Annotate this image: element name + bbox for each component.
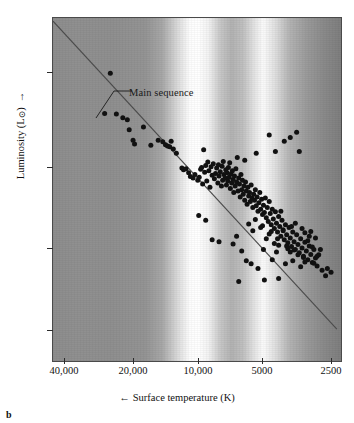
y-tick-mark <box>47 248 53 249</box>
x-tick-label: 40,000 <box>50 365 79 376</box>
y-axis-title-close: ) <box>15 107 26 111</box>
x-tick-mark <box>133 358 134 364</box>
hr-diagram-figure: Main sequence 104102110−2 Luminosity (L⊙… <box>0 0 354 423</box>
x-tick-label: 5000 <box>252 365 273 376</box>
scatter-plot-canvas <box>53 18 342 362</box>
y-tick-mark <box>47 330 53 331</box>
y-axis-title-text: Luminosity (L <box>15 118 26 179</box>
star-data-points <box>102 71 333 284</box>
x-tick-label: 2500 <box>321 365 342 376</box>
solar-symbol-icon: ⊙ <box>17 111 27 119</box>
x-axis-title: ←Surface temperature (K) <box>0 392 354 403</box>
y-axis-title: Luminosity (L⊙)→ <box>15 51 27 221</box>
panel-letter: b <box>6 409 12 420</box>
y-tick-mark <box>47 167 53 168</box>
x-axis-title-text: Surface temperature (K) <box>133 392 235 403</box>
x-axis-arrow-icon: ← <box>119 392 133 403</box>
y-tick-mark <box>47 72 53 73</box>
x-tick-mark <box>64 358 65 364</box>
x-tick-label: 10,000 <box>184 365 213 376</box>
x-tick-label: 20,000 <box>119 365 148 376</box>
x-tick-mark <box>198 358 199 364</box>
plot-area <box>52 17 342 362</box>
main-sequence-label: Main sequence <box>129 87 194 98</box>
x-tick-mark <box>331 358 332 364</box>
x-tick-mark <box>262 358 263 364</box>
y-axis-arrow-icon: → <box>15 93 26 108</box>
